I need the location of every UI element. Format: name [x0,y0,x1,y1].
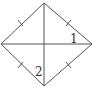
angle-label-2: 2 [35,65,43,79]
rhombus-figure: 1 2 [0,0,97,96]
rhombus-diagram: 1 2 [0,0,97,96]
angle-label-1: 1 [70,32,78,46]
